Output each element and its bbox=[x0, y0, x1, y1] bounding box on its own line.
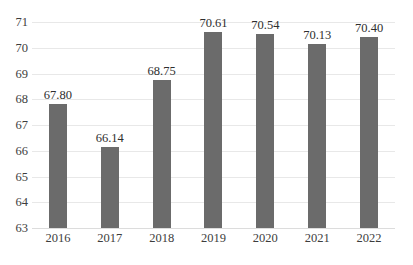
bar-2019 bbox=[204, 32, 222, 228]
y-tick-label: 65 bbox=[16, 170, 29, 183]
x-tick-group: 2022 bbox=[343, 232, 395, 245]
plot-area: 67.8066.1468.7570.6170.5470.1370.40 bbox=[32, 22, 395, 228]
x-tick-label: 2016 bbox=[32, 232, 84, 245]
y-tick-label: 63 bbox=[16, 222, 29, 235]
bar-2017 bbox=[101, 147, 119, 228]
x-tick-label: 2017 bbox=[84, 232, 136, 245]
bar-value-label: 70.61 bbox=[199, 17, 227, 30]
gridline-63 bbox=[32, 228, 395, 229]
bar-2020 bbox=[256, 34, 274, 228]
bar-2022 bbox=[360, 37, 378, 228]
x-tick-group: 2020 bbox=[239, 232, 291, 245]
x-tick-group: 2018 bbox=[136, 232, 188, 245]
y-tick-label: 66 bbox=[16, 145, 29, 158]
y-tick-label: 70 bbox=[16, 42, 29, 55]
bar-2018 bbox=[153, 80, 171, 228]
y-tick-label: 67 bbox=[16, 119, 29, 132]
y-tick-label: 69 bbox=[16, 67, 29, 80]
x-tick-label: 2020 bbox=[239, 232, 291, 245]
bar-group: 66.14 bbox=[84, 22, 136, 228]
bar-group: 70.54 bbox=[239, 22, 291, 228]
bar-value-label: 67.80 bbox=[44, 89, 72, 102]
x-tick-label: 2019 bbox=[188, 232, 240, 245]
bar-2016 bbox=[49, 104, 67, 228]
bar-value-label: 70.40 bbox=[355, 22, 383, 35]
bar-2021 bbox=[308, 44, 326, 228]
y-tick-label: 71 bbox=[16, 16, 29, 29]
y-axis: 636465666768697071 bbox=[0, 22, 28, 228]
bar-value-label: 68.75 bbox=[148, 65, 176, 78]
y-tick-label: 68 bbox=[16, 93, 29, 106]
x-axis: 2016201720182019202020212022 bbox=[32, 232, 395, 254]
bar-group: 67.80 bbox=[32, 22, 84, 228]
x-tick-group: 2016 bbox=[32, 232, 84, 245]
bar-value-label: 66.14 bbox=[96, 132, 124, 145]
x-tick-group: 2021 bbox=[291, 232, 343, 245]
bar-group: 70.61 bbox=[188, 22, 240, 228]
x-tick-label: 2018 bbox=[136, 232, 188, 245]
x-tick-group: 2017 bbox=[84, 232, 136, 245]
x-tick-label: 2021 bbox=[291, 232, 343, 245]
y-tick-label: 64 bbox=[16, 196, 29, 209]
bar-group: 70.13 bbox=[291, 22, 343, 228]
bar-value-label: 70.54 bbox=[251, 19, 279, 32]
bar-group: 70.40 bbox=[343, 22, 395, 228]
bar-value-label: 70.13 bbox=[303, 29, 331, 42]
x-tick-label: 2022 bbox=[343, 232, 395, 245]
bar-group: 68.75 bbox=[136, 22, 188, 228]
x-tick-group: 2019 bbox=[188, 232, 240, 245]
bar-chart: 636465666768697071 67.8066.1468.7570.617… bbox=[0, 0, 413, 265]
